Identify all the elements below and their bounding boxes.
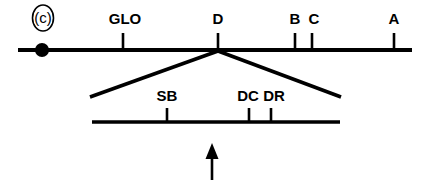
figure-canvas: (c) GLO D B C A SB DC DR (0, 0, 428, 188)
locus-label-d: D (213, 10, 224, 27)
locus-label-a: A (389, 10, 400, 27)
centromere-dot (35, 43, 49, 57)
panel-label: (c) (34, 9, 52, 26)
locus-label-c: C (309, 10, 320, 27)
linkage-map-figure: (c) GLO D B C A SB DC DR (0, 0, 428, 188)
locus-label-glo: GLO (109, 10, 142, 27)
locus-label-b: B (290, 10, 301, 27)
panel-label-group: (c) (33, 5, 54, 31)
locus-label-dc: DC (237, 87, 259, 104)
expansion-line-left (90, 51, 218, 97)
up-arrow-marker (206, 143, 219, 180)
locus-label-dr: DR (263, 87, 285, 104)
locus-label-sb: SB (157, 87, 178, 104)
arrow-head-icon (206, 143, 219, 159)
